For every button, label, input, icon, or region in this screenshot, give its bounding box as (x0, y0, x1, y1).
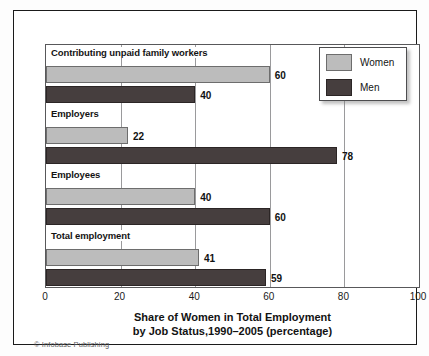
x-tick-80: 80 (338, 291, 349, 302)
bar-rect-men[interactable] (46, 208, 270, 225)
bar-value-label-men: 40 (200, 89, 211, 100)
legend-entry-women: Women (326, 52, 394, 72)
figure-frame: Contributing unpaid family workers6040Em… (13, 10, 417, 345)
x-tick-0: 0 (42, 291, 48, 302)
legend-swatch-women (326, 54, 352, 71)
bar-women[interactable]: 41 (46, 249, 419, 266)
bar-value-label-men: 60 (275, 211, 286, 222)
chart-title: Share of Women in Total Employment by Jo… (45, 310, 420, 338)
bar-women[interactable]: 22 (46, 127, 419, 144)
bar-value-label-men: 59 (271, 272, 282, 283)
copyright-credit: © Infobase Publishing (34, 340, 109, 349)
x-tick-100: 100 (410, 291, 427, 302)
bar-value-label-women: 40 (200, 191, 211, 202)
bar-value-label-women: 60 (275, 69, 286, 80)
bar-women[interactable]: 40 (46, 188, 419, 205)
legend-entry-men: Men (326, 77, 379, 97)
bar-group: Employees4060 (46, 167, 419, 228)
bar-rect-women[interactable] (46, 188, 195, 205)
chart-title-line1: Share of Women in Total Employment (45, 310, 420, 324)
bar-rect-men[interactable] (46, 147, 337, 164)
bar-group: Employers2278 (46, 106, 419, 167)
bar-rect-women[interactable] (46, 66, 270, 83)
bar-men[interactable]: 78 (46, 147, 419, 164)
bar-rect-women[interactable] (46, 127, 128, 144)
chart-figure: Contributing unpaid family workers6040Em… (0, 0, 429, 356)
legend-swatch-men (326, 79, 352, 96)
bar-group-label: Employers (51, 108, 102, 119)
legend-label-men: Men (360, 82, 379, 93)
bar-group-label: Employees (51, 169, 103, 180)
legend-label-women: Women (360, 57, 394, 68)
x-tick-20: 20 (114, 291, 125, 302)
bar-men[interactable]: 59 (46, 269, 419, 286)
x-axis-ticks: 020406080100 (45, 291, 420, 307)
bar-group: Total employment4159 (46, 228, 419, 289)
bar-group-label: Contributing unpaid family workers (51, 47, 211, 58)
bar-rect-men[interactable] (46, 269, 266, 286)
chart-title-line2: by Job Status,1990–2005 (percentage) (45, 324, 420, 338)
x-tick-60: 60 (263, 291, 274, 302)
bar-value-label-women: 41 (204, 252, 215, 263)
chart-legend: Women Men (319, 47, 407, 101)
bar-group-label: Total employment (51, 230, 133, 241)
bar-rect-men[interactable] (46, 86, 195, 103)
bar-value-label-women: 22 (133, 130, 144, 141)
bar-rect-women[interactable] (46, 249, 199, 266)
bar-men[interactable]: 60 (46, 208, 419, 225)
bar-value-label-men: 78 (342, 150, 353, 161)
x-tick-40: 40 (189, 291, 200, 302)
